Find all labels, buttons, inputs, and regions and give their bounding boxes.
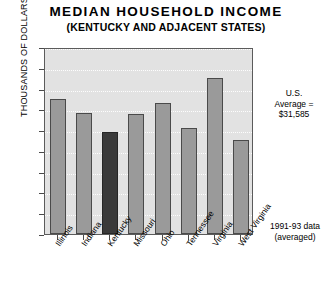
y-tick-mark (39, 48, 44, 49)
y-tick-mark (39, 152, 44, 153)
annotation-line: Average = (275, 99, 314, 109)
y-tick-mark (39, 214, 44, 215)
bar-ohio (155, 103, 171, 234)
annotation-line: 1991-93 data (270, 221, 320, 231)
annotation-line: (averaged) (274, 232, 315, 242)
data-source-annotation: 1991-93 data(averaged) (258, 221, 332, 242)
plot-area (44, 48, 253, 235)
annotation-line: $31,585 (279, 109, 310, 119)
y-tick-mark (39, 90, 44, 91)
y-tick-mark (39, 235, 44, 236)
y-axis-title: THOUSANDS OF DOLLARS (19, 0, 29, 137)
y-tick-mark (39, 131, 44, 132)
chart-subtitle: (KENTUCKY AND ADJACENT STATES) (0, 21, 332, 33)
bar-missouri (128, 114, 144, 234)
bar-kentucky (102, 132, 118, 234)
bar-indiana (76, 113, 92, 234)
bar-illinois (50, 99, 66, 234)
bar-west-virginia (233, 140, 249, 234)
chart-title: MEDIAN HOUSEHOLD INCOME (0, 4, 332, 19)
y-tick-mark (39, 193, 44, 194)
y-tick-mark (39, 110, 44, 111)
bars-layer (45, 49, 252, 234)
y-tick-mark (39, 173, 44, 174)
bar-tennessee (181, 128, 197, 234)
us-average-annotation: U.S.Average =$31,585 (258, 88, 330, 120)
chart-figure: MEDIAN HOUSEHOLD INCOME (KENTUCKY AND AD… (0, 0, 332, 307)
y-tick-mark (39, 69, 44, 70)
annotation-line: U.S. (286, 88, 303, 98)
